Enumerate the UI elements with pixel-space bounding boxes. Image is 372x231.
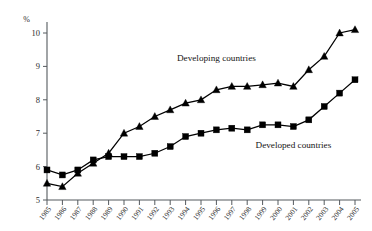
x-tick-label: 1996 bbox=[206, 204, 222, 221]
data-point-triangle bbox=[197, 96, 204, 103]
x-tick-label: 2005 bbox=[345, 204, 361, 221]
y-tick-label: 7 bbox=[36, 128, 40, 138]
x-tick-label: 1990 bbox=[114, 204, 130, 221]
y-axis-unit-label: % bbox=[23, 15, 30, 24]
data-point-square bbox=[152, 150, 158, 156]
x-tick-label: 1994 bbox=[175, 204, 191, 221]
line-chart: 5678910 19851986198719881989199019911992… bbox=[0, 0, 372, 231]
data-point-square bbox=[229, 125, 235, 131]
data-point-square bbox=[75, 167, 81, 173]
x-tick-label: 1985 bbox=[37, 204, 53, 221]
y-tick-label: 5 bbox=[36, 195, 40, 205]
data-point-square bbox=[59, 172, 65, 178]
x-tick-label: 1997 bbox=[222, 204, 238, 221]
x-tick-label: 2003 bbox=[314, 204, 330, 221]
data-point-square bbox=[244, 127, 250, 133]
x-tick-group: 1985198619871988198919901991199219931994… bbox=[37, 200, 361, 222]
x-tick-label: 1991 bbox=[129, 204, 145, 221]
data-point-square bbox=[183, 134, 189, 140]
series-1 bbox=[43, 26, 358, 190]
data-point-triangle bbox=[43, 179, 50, 186]
x-tick-label: 1998 bbox=[237, 204, 253, 221]
x-tick-label: 2001 bbox=[283, 204, 299, 221]
y-tick-label: 10 bbox=[32, 28, 41, 38]
data-point-triangle bbox=[274, 79, 281, 86]
data-point-square bbox=[90, 157, 96, 163]
x-tick-label: 1995 bbox=[191, 204, 207, 221]
data-point-square bbox=[106, 154, 112, 160]
y-tick-group: 5678910 bbox=[32, 28, 48, 205]
x-tick-label: 1987 bbox=[68, 204, 84, 221]
x-tick-label: 1989 bbox=[98, 204, 114, 221]
y-axis: 5678910 bbox=[32, 22, 48, 205]
data-point-square bbox=[136, 154, 142, 160]
data-point-square bbox=[321, 103, 327, 109]
x-tick-label: 2000 bbox=[268, 204, 284, 221]
data-point-square bbox=[290, 124, 296, 130]
data-point-square bbox=[121, 154, 127, 160]
series-group bbox=[43, 26, 358, 190]
x-tick-label: 2004 bbox=[329, 204, 345, 221]
data-point-square bbox=[275, 122, 281, 128]
x-tick-label: 1986 bbox=[52, 204, 68, 221]
data-point-square bbox=[213, 127, 219, 133]
x-axis: 1985198619871988198919901991199219931994… bbox=[37, 200, 361, 222]
x-tick-label: 1992 bbox=[145, 204, 161, 221]
x-tick-label: 1988 bbox=[83, 204, 99, 221]
x-tick-label: 1993 bbox=[160, 204, 176, 221]
data-point-triangle bbox=[136, 123, 143, 130]
series-annotation-label: Developing countries bbox=[177, 53, 256, 63]
series-annotation-label: Developed countries bbox=[256, 140, 332, 150]
data-point-square bbox=[352, 77, 358, 83]
y-tick-label: 6 bbox=[36, 162, 40, 172]
x-tick-label: 2002 bbox=[299, 204, 315, 221]
data-point-square bbox=[260, 122, 266, 128]
data-point-square bbox=[306, 117, 312, 123]
data-point-square bbox=[337, 90, 343, 96]
series-2 bbox=[44, 77, 358, 178]
data-point-triangle bbox=[351, 26, 358, 33]
data-point-square bbox=[198, 130, 204, 136]
x-tick-label: 1999 bbox=[252, 204, 268, 221]
chart-container: 5678910 19851986198719881989199019911992… bbox=[0, 0, 372, 231]
y-tick-label: 8 bbox=[36, 95, 40, 105]
data-point-square bbox=[167, 144, 173, 150]
data-point-square bbox=[44, 167, 50, 173]
y-tick-label: 9 bbox=[36, 61, 40, 71]
